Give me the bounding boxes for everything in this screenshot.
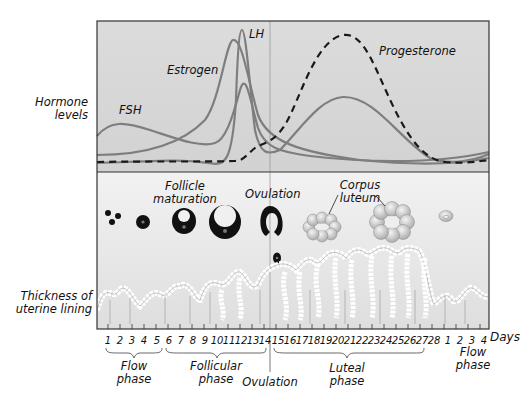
phase-flow-2: Flowphase <box>448 346 498 372</box>
phase-braces <box>106 348 424 358</box>
ovulation-top-label: Ovulation <box>245 188 300 201</box>
follicle-maturation-label: Follicle maturation <box>145 180 225 206</box>
days-axis-label: Days <box>490 331 520 344</box>
fsh-label: FSH <box>119 104 142 117</box>
phase-flow-1: Flowphase <box>104 360 164 386</box>
hormone-levels-label: Hormone levels <box>20 96 88 122</box>
phase-ovulation: Ovulation <box>235 376 305 389</box>
lh-label: LH <box>249 28 264 41</box>
phase-luteal: Lutealphase <box>317 362 377 388</box>
uterine-lining-label: Thickness of uterine lining <box>0 290 92 316</box>
estrogen-label: Estrogen <box>167 64 218 77</box>
progesterone-label: Progesterone <box>379 45 456 58</box>
corpus-luteum-label: Corpus luteum <box>330 179 390 205</box>
